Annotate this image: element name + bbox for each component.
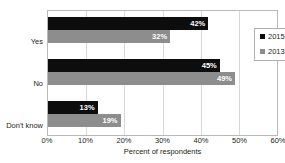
category-axis: Yes No Don't know — [0, 10, 47, 136]
category-label-yes: Yes — [31, 38, 43, 46]
bar-chart-figure: Yes No Don't know 42% 32% 45% 49% — [0, 0, 285, 163]
bar-dont-know-2015: 13% — [48, 101, 98, 114]
x-axis-title: Percent of respondents — [47, 148, 278, 156]
chart-title — [0, 0, 285, 4]
bar-value-yes-2013: 32% — [152, 33, 167, 41]
x-tick-60: 60% — [270, 137, 285, 145]
bar-dont-know-2013: 19% — [48, 114, 121, 127]
legend-entry-2013: 2013 — [260, 48, 285, 56]
bar-value-dont-know-2015: 13% — [80, 104, 95, 112]
plot-area: 42% 32% 45% 49% 13% 19% 20 — [47, 10, 278, 136]
bar-group-no: 45% 49% — [48, 53, 277, 95]
bar-value-no-2013: 49% — [217, 75, 232, 83]
bar-no-2013: 49% — [48, 72, 235, 85]
legend-swatch-2015 — [260, 34, 265, 39]
bar-value-dont-know-2013: 19% — [103, 117, 118, 125]
legend-entry-2015: 2015 — [260, 33, 285, 41]
bar-yes-2013: 32% — [48, 30, 170, 43]
legend: 2015 2013 — [254, 28, 285, 61]
bar-value-yes-2015: 42% — [190, 20, 205, 28]
x-tick-30: 30% — [155, 137, 170, 145]
x-tick-0: 0% — [42, 137, 53, 145]
bar-yes-2015: 42% — [48, 17, 208, 30]
x-tick-20: 20% — [116, 137, 131, 145]
bar-no-2015: 45% — [48, 59, 220, 72]
x-tick-50: 50% — [232, 137, 247, 145]
category-label-dont-know: Don't know — [6, 122, 43, 130]
x-tick-10: 10% — [78, 137, 93, 145]
bar-group-yes: 42% 32% — [48, 11, 277, 53]
bar-group-dont-know: 13% 19% — [48, 95, 277, 137]
legend-label-2013: 2013 — [268, 48, 285, 56]
category-label-no: No — [33, 80, 43, 88]
x-tick-40: 40% — [193, 137, 208, 145]
bar-value-no-2015: 45% — [202, 62, 217, 70]
legend-swatch-2013 — [260, 49, 265, 54]
legend-label-2015: 2015 — [268, 33, 285, 41]
